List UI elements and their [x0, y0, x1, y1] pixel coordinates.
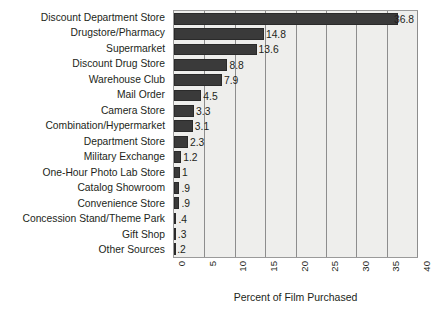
value-axis: 0510152025303540 — [173, 259, 418, 289]
x-tick-label: 10 — [238, 261, 248, 272]
bar-value-label: .3 — [176, 230, 187, 240]
category-label: One-Hour Photo Lab Store — [0, 165, 170, 181]
bar-value-label: .2 — [175, 245, 186, 255]
bar-value-label: 14.8 — [264, 30, 286, 40]
category-label: Other Sources — [0, 243, 170, 259]
bar — [174, 151, 181, 163]
bar-row: 14.8 — [174, 26, 417, 41]
bar-value-label: 1 — [180, 168, 188, 178]
bar-row: 4.5 — [174, 88, 417, 103]
category-label: Supermarket — [0, 41, 170, 57]
category-label: Concession Stand/Theme Park — [0, 212, 170, 228]
bar-row: 1.2 — [174, 149, 417, 164]
x-tick-label: 35 — [391, 261, 401, 272]
bar-row: 3.3 — [174, 103, 417, 118]
x-tick-label: 40 — [422, 261, 432, 272]
bar-value-label: 13.6 — [257, 45, 279, 55]
category-label: Military Exchange — [0, 150, 170, 166]
x-tick-label: 25 — [330, 261, 340, 272]
category-label: Department Store — [0, 134, 170, 150]
category-label: Camera Store — [0, 103, 170, 119]
category-label: Warehouse Club — [0, 72, 170, 88]
bar-value-label: 8.8 — [227, 60, 243, 70]
category-label: Combination/Hypermarket — [0, 119, 170, 135]
bar-value-label: 7.9 — [222, 76, 238, 86]
bar — [174, 90, 201, 102]
bar-row: .3 — [174, 226, 417, 241]
x-tick-label: 30 — [361, 261, 371, 272]
bar-row: .9 — [174, 180, 417, 195]
bar-value-label: 1.2 — [181, 153, 197, 163]
bar — [174, 120, 193, 132]
bar-value-label: 4.5 — [201, 91, 217, 101]
bar-chart: Discount Department StoreDrugstore/Pharm… — [0, 0, 445, 315]
bar-value-label: 3.3 — [194, 107, 210, 117]
bar — [174, 59, 227, 71]
category-label: Gift Shop — [0, 227, 170, 243]
category-label: Discount Department Store — [0, 10, 170, 26]
bar-value-label: .9 — [179, 199, 190, 209]
bar-row: 13.6 — [174, 42, 417, 57]
bar-series: 36.814.813.68.87.94.53.33.12.31.21.9.9.4… — [174, 11, 417, 257]
bar — [174, 28, 264, 40]
category-label: Catalog Showroom — [0, 181, 170, 197]
plot-area: 36.814.813.68.87.94.53.33.12.31.21.9.9.4… — [173, 10, 418, 258]
bar-value-label: .4 — [176, 214, 187, 224]
x-tick-label: 0 — [177, 261, 187, 266]
bar-value-label: 2.3 — [188, 137, 204, 147]
bar — [174, 74, 222, 86]
bar-row: 7.9 — [174, 73, 417, 88]
bar-row: .9 — [174, 196, 417, 211]
bar-row: .4 — [174, 211, 417, 226]
gridline — [417, 11, 418, 257]
bar-row: 36.8 — [174, 11, 417, 26]
x-tick-label: 20 — [300, 261, 310, 272]
bar-row: 1 — [174, 165, 417, 180]
bar-value-label: 36.8 — [394, 14, 417, 24]
bar — [174, 13, 398, 25]
bar — [174, 105, 194, 117]
bar-row: 3.1 — [174, 119, 417, 134]
x-tick-label: 5 — [208, 261, 218, 266]
category-label: Mail Order — [0, 88, 170, 104]
bar — [174, 136, 188, 148]
category-label: Discount Drug Store — [0, 57, 170, 73]
category-label: Convenience Store — [0, 196, 170, 212]
x-axis-title: Percent of Film Purchased — [173, 292, 418, 303]
category-label: Drugstore/Pharmacy — [0, 26, 170, 42]
bar-row: 2.3 — [174, 134, 417, 149]
bar-row: 8.8 — [174, 57, 417, 72]
bar — [174, 44, 257, 56]
x-tick-label: 15 — [269, 261, 279, 272]
category-axis: Discount Department StoreDrugstore/Pharm… — [0, 10, 170, 258]
bar-value-label: 3.1 — [193, 122, 209, 132]
bar-value-label: .9 — [179, 183, 190, 193]
bar-row: .2 — [174, 242, 417, 257]
